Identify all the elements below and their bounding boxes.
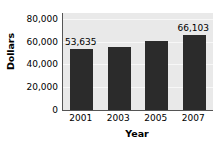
x-axis-tick-label: 2005 (136, 113, 176, 123)
bar (145, 41, 168, 110)
x-axis-tick-label: 2003 (98, 113, 138, 123)
x-axis-tick-labels: 2001200320052007 (62, 113, 212, 127)
bar-chart: Dollars 020,00040,00060,00080,000 200120… (0, 0, 222, 144)
bar (108, 47, 131, 110)
x-axis-title: Year (62, 128, 212, 139)
y-axis-tick-label: 40,000 (14, 60, 58, 69)
x-axis-tick-label: 2001 (61, 113, 101, 123)
bar (183, 35, 206, 110)
bar (70, 49, 93, 110)
y-axis-tick-label: 0 (14, 106, 58, 115)
y-axis-tick-label: 20,000 (14, 83, 58, 92)
bar-value-label: 53,635 (58, 37, 104, 47)
y-axis-tick-labels: 020,00040,00060,00080,000 (14, 0, 58, 144)
bar-value-label: 66,103 (170, 23, 216, 33)
gridline (63, 19, 213, 20)
y-axis-tick-label: 80,000 (14, 14, 58, 23)
y-axis-tick-label: 60,000 (14, 37, 58, 46)
x-axis-tick-label: 2007 (173, 113, 213, 123)
